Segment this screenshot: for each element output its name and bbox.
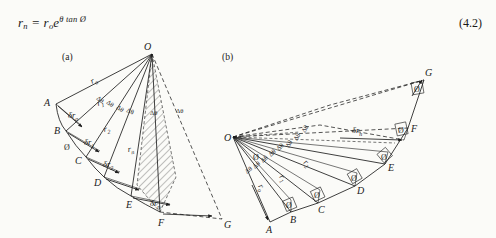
figure-b-label-C: C <box>318 204 325 215</box>
figure-a-deltar-label-0: δro <box>68 110 78 122</box>
figure-b-envelope-aux-1 <box>233 137 395 143</box>
figure-b-deltatheta-l4: Δθ <box>275 142 285 152</box>
figure-b-deltar-label-n: δrn <box>352 125 362 137</box>
figure-b-angle-label-B: Ø <box>286 201 292 210</box>
figure-a-deltatheta-1: Δθ <box>105 98 115 108</box>
figure-canvas: O A B C D E F G ro r1 r2 rn δro δr1 <box>0 0 496 238</box>
figure-b-ray-OG <box>233 80 424 137</box>
figure-b-angle-label-G: Ø <box>414 85 420 94</box>
figure-b-envelope-upper <box>233 125 404 140</box>
figure-a-deltatheta-4: Δθ <box>150 109 157 116</box>
figure-a-label-C: C <box>75 155 82 166</box>
figure-a-deltatheta-3: Δθ <box>126 106 135 115</box>
figure-a-label-O: O <box>144 41 151 52</box>
figure-b-angle-label-D: Ø <box>351 174 357 183</box>
figure-a-label-G: G <box>224 219 231 230</box>
figure-b-label-A: A <box>265 224 273 235</box>
figure-b-angle-label-O: Ø <box>253 153 259 162</box>
figure-a-label-E: E <box>125 199 132 210</box>
figure-a-group: O A B C D E F G ro r1 r2 rn δro δr1 <box>43 41 231 230</box>
figure-a-deltatheta-5: Δθ <box>176 107 183 114</box>
figure-b-label-O: O <box>224 132 231 143</box>
figure-b-label-B: B <box>290 214 296 225</box>
figure-a-deltar-label-2: δr2 <box>103 159 113 171</box>
figure-b-label-G: G <box>425 67 432 78</box>
figure-a-deltar-label-1: δr1 <box>84 137 94 149</box>
figure-b-radius-label-1: r1 <box>276 172 289 184</box>
figure-b-angle-label-E: Ø <box>381 153 387 162</box>
figure-a-chord-DE <box>104 177 140 189</box>
figure-b-radius-label-2: r2 <box>301 157 313 170</box>
figure-b-deltatheta-l2: Δθ <box>259 154 269 164</box>
figure-a-chord-BC <box>66 131 100 151</box>
figure-b-offset-4 <box>233 137 388 152</box>
figure-b-angle-label-F: Ø <box>398 126 404 135</box>
figure-b-deltatheta-u2: Δθ <box>300 124 310 134</box>
figure-a-radius-label-0: ro <box>88 74 99 87</box>
figure-page: rn = roeθ tan Ø (4.2) (a) (b) <box>0 0 496 238</box>
figure-b-label-E: E <box>387 162 394 173</box>
figure-b-angle-label-C: Ø <box>314 191 320 200</box>
figure-b-deltatheta-u1: Δθ <box>292 132 302 142</box>
figure-b-chain-lower <box>270 80 424 222</box>
figure-a-deltar-arrow-3 <box>106 179 139 190</box>
figure-a-radius-label-n: rn <box>127 143 134 155</box>
figure-a-deltatheta-2: Δθ <box>115 103 125 113</box>
figure-b-offset-3 <box>233 137 357 173</box>
figure-a-label-F: F <box>157 217 165 228</box>
figure-b-label-D: D <box>356 185 365 196</box>
figure-b-deltatheta-u0: Δθ <box>284 139 294 149</box>
figure-a-label-B: B <box>54 125 60 136</box>
figure-b-label-F: F <box>410 123 418 134</box>
figure-a-angle-label-0: Ø <box>64 143 70 152</box>
figure-a-label-D: D <box>93 177 102 188</box>
figure-a-label-A: A <box>43 97 51 108</box>
figure-b-group: O A B C D E F G ro r1 r2 δrn Δθ Δθ Δθ <box>224 67 432 235</box>
